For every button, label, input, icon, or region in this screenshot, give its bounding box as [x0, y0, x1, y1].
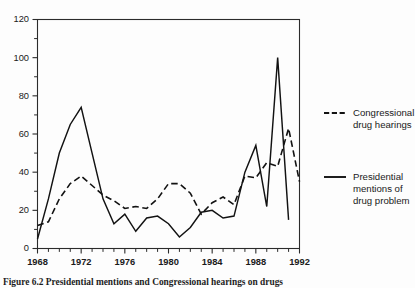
x-tick-label: 1972 — [71, 257, 92, 267]
x-tick-label: 1980 — [158, 257, 179, 267]
legend-label: drug hearings — [353, 119, 412, 130]
chart-legend: Congressionaldrug hearingsPresidentialme… — [324, 107, 414, 207]
series-line-presidential-mentions — [38, 58, 289, 239]
y-axis: 020406080100120 — [13, 14, 37, 253]
legend-label: mentions of — [353, 183, 403, 194]
y-tick-label: 0 — [24, 243, 29, 253]
y-tick-label: 20 — [19, 205, 29, 215]
y-tick-label: 40 — [19, 167, 29, 177]
x-tick-label: 1968 — [27, 257, 48, 267]
x-tick-label: 1976 — [114, 257, 135, 267]
x-tick-label: 1984 — [202, 257, 224, 267]
x-tick-label: 1988 — [245, 257, 266, 267]
data-series-group — [38, 58, 300, 239]
y-tick-label: 80 — [19, 91, 29, 101]
series-line-congressional-hearings — [38, 128, 300, 225]
x-axis: 1968197219761980198419881992 — [27, 249, 310, 267]
figure-caption-text: Figure 6.2 Presidential mentions and Con… — [3, 276, 412, 288]
plot-frame — [38, 20, 300, 249]
y-tick-label: 100 — [13, 53, 29, 63]
y-tick-label: 120 — [13, 14, 29, 24]
figure-caption: Figure 6.2 Presidential mentions and Con… — [3, 276, 412, 288]
legend-label: Presidential — [353, 171, 403, 182]
legend-label: drug problem — [353, 195, 410, 206]
y-tick-label: 60 — [19, 129, 29, 139]
legend-label: Congressional — [353, 107, 414, 118]
x-tick-label: 1992 — [289, 257, 310, 267]
